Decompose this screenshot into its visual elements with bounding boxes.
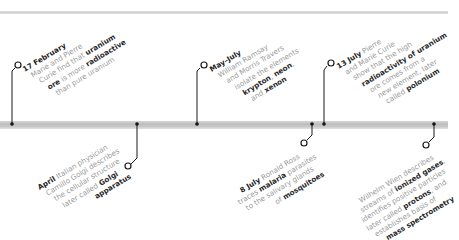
connector-13-july xyxy=(322,60,334,126)
connector-wien xyxy=(423,122,436,148)
connector-april xyxy=(125,122,139,169)
connector-8-july xyxy=(301,122,314,146)
connector-17-february xyxy=(10,62,21,126)
marker-circle-icon xyxy=(201,62,207,68)
marker-circle-icon xyxy=(328,60,334,66)
connector-may-july xyxy=(195,62,207,126)
marker-circle-icon xyxy=(423,142,429,148)
